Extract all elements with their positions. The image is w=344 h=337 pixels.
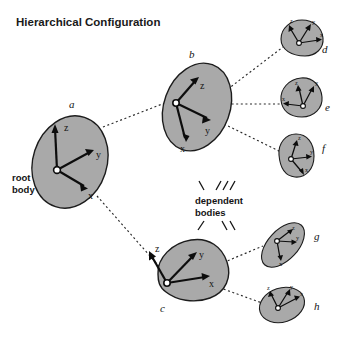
page-title: Hierarchical Configuration (16, 16, 160, 28)
body-a-label-z: z (64, 122, 69, 133)
body-c-shape (158, 239, 229, 300)
root-body-line1: root (12, 172, 31, 183)
hatch-marks-bottom (198, 221, 235, 230)
body-h-origin (276, 306, 281, 311)
body-g-shape (254, 215, 313, 275)
body-a-label-y: y (96, 149, 101, 160)
body-e-name: e (325, 101, 330, 113)
connector-a-b (103, 101, 170, 127)
body-d-label-z: z (290, 17, 293, 24)
hierarchical-configuration-figure: Hierarchical Configuration z y x a (0, 0, 344, 337)
body-f-origin (289, 157, 294, 162)
body-b-label-y: y (205, 125, 210, 136)
body-g[interactable]: z y x g (254, 215, 320, 275)
body-c[interactable]: z y x c (149, 239, 229, 314)
body-a[interactable]: z y x a (20, 98, 119, 218)
body-h-shape (255, 282, 309, 329)
body-c-label-y: y (199, 249, 204, 260)
body-c-origin (164, 280, 170, 286)
body-f[interactable]: z y x f (279, 134, 327, 177)
body-a-name: a (69, 98, 75, 110)
body-h-label-z: z (267, 284, 270, 291)
dependent-bodies-annotation: dependent bodies (195, 181, 244, 230)
body-b[interactable]: z y x b (151, 48, 244, 161)
connector-b-f (224, 124, 281, 152)
body-d-origin (297, 41, 302, 46)
dependent-bodies-line1: dependent (195, 195, 244, 206)
connector-b-d (224, 47, 283, 92)
body-d-name: d (322, 43, 328, 55)
body-a-origin (54, 167, 61, 174)
body-h[interactable]: z y x h (255, 282, 320, 329)
body-f-name: f (322, 142, 327, 154)
body-g-origin (275, 239, 280, 244)
body-a-label-x: x (88, 190, 93, 201)
body-b-origin (173, 100, 179, 106)
body-g-name: g (314, 230, 320, 242)
diagram-canvas: Hierarchical Configuration z y x a (0, 0, 344, 337)
hatch-marks-top (199, 181, 235, 190)
root-body-line2: body (12, 184, 35, 195)
body-f-label-z: z (298, 134, 301, 141)
body-c-label-x: x (209, 278, 214, 289)
body-c-name: c (160, 302, 165, 314)
body-e[interactable]: z y x e (281, 78, 330, 117)
body-e-label-y: y (315, 79, 319, 86)
body-h-name: h (314, 300, 320, 312)
dependent-bodies-line2: bodies (195, 207, 226, 218)
body-b-label-z: z (200, 80, 205, 91)
body-b-shape (151, 53, 244, 160)
body-e-origin (301, 104, 306, 109)
body-b-label-x: x (180, 143, 185, 154)
body-d[interactable]: z y x d (281, 17, 328, 56)
body-g-label-z: z (292, 224, 295, 231)
body-b-name: b (189, 48, 195, 60)
body-c-label-z: z (155, 243, 160, 254)
body-e-label-z: z (295, 79, 298, 86)
